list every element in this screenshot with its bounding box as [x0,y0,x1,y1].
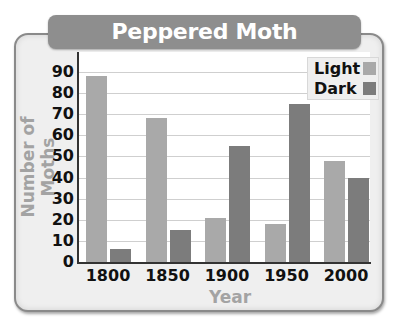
gridline [78,135,370,136]
bar-light-1850 [146,118,167,262]
bar-dark-1800 [110,249,131,262]
y-axis-line [77,52,79,264]
bar-dark-1950 [289,104,310,262]
y-axis-label: Number of Moths [18,87,58,247]
legend-item-light: Light [314,59,378,79]
x-tick-label: 1950 [262,266,312,285]
x-tick-label: 1900 [202,266,252,285]
bar-dark-1850 [170,230,191,262]
x-axis-label: Year [200,287,260,307]
bar-light-1900 [205,218,226,262]
legend-label: Dark [314,79,357,99]
chart-title: Peppered Moth Populations [48,15,361,49]
legend-label: Light [314,59,360,79]
legend-swatch-dark [363,82,376,95]
bar-light-1950 [265,224,286,262]
x-tick-label: 1850 [143,266,193,285]
x-tick-label: 1800 [83,266,133,285]
gridline [78,156,370,157]
y-tick-label: 0 [44,254,74,270]
bar-light-1800 [86,76,107,262]
bar-dark-1900 [229,146,250,262]
y-tick-label: 90 [44,64,74,80]
legend: Light Dark [307,57,379,100]
gridline [78,114,370,115]
legend-swatch-light [363,62,376,75]
bar-light-2000 [324,161,345,262]
x-tick-label: 2000 [321,266,371,285]
bar-dark-2000 [348,178,369,262]
legend-item-dark: Dark [314,79,378,99]
x-axis-line [77,262,371,264]
